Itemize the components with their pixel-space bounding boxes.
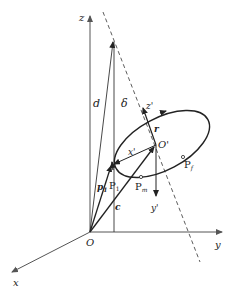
p1-point-label: P1: [109, 180, 120, 192]
z-prime-label: z': [145, 101, 153, 111]
x-prime-label: x': [128, 147, 136, 157]
x-axis-label: x: [13, 277, 19, 288]
d-label: d: [93, 97, 100, 110]
y-prime-label: y': [150, 203, 159, 213]
origin-label: O: [86, 237, 94, 248]
c-label: c: [115, 202, 121, 212]
o-prime-label: O': [158, 139, 169, 150]
pf-point-label: Pf: [184, 159, 195, 172]
apex-line: [90, 42, 113, 232]
z-axis-label: z: [78, 12, 85, 23]
point-pm: [139, 175, 142, 178]
x-axis: [12, 232, 90, 272]
delta-label: δ: [121, 97, 128, 110]
ellipse-direction-arrow-2: [112, 162, 113, 170]
dashed-axis-line: [103, 12, 200, 262]
geometry-diagram: z y x O d δ z' r O' x' y' c p1 P1 Pm Pf: [0, 0, 238, 288]
global-axes: [12, 16, 222, 272]
r-label: r: [154, 124, 160, 134]
p1-vector: [90, 166, 111, 232]
y-axis-label: y: [214, 239, 221, 250]
ellipse-direction-arrow: [160, 111, 166, 113]
pm-point-label: Pm: [135, 181, 148, 193]
